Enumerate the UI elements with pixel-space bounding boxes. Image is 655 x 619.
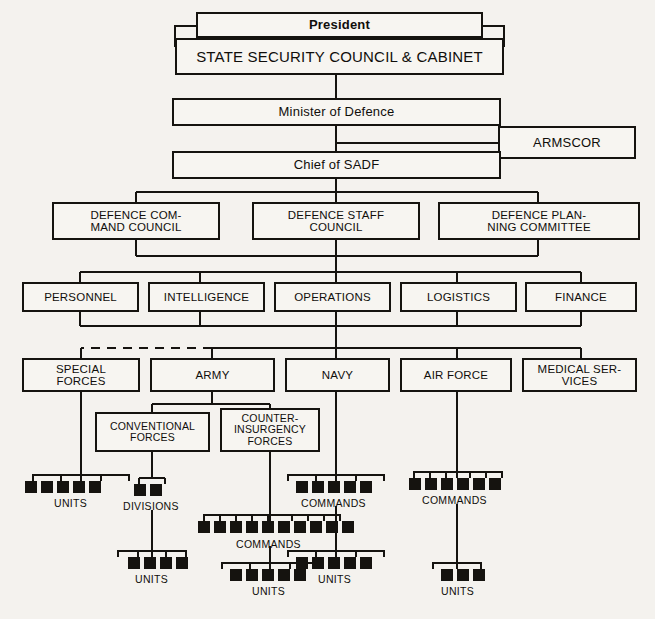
leaf-node-square[interactable] [473,569,485,581]
leaf-node-square[interactable] [360,481,372,493]
node-intelligence-label: INTELLIGENCE [164,291,249,303]
node-state-security-council[interactable]: STATE SECURITY COUNCIL & CABINET [175,38,504,75]
caption-navy-units: UNITS [318,573,351,585]
leaf-node-square[interactable] [457,569,469,581]
leaf-group-navy-commands[interactable] [296,481,372,493]
leaf-node-square[interactable] [328,481,340,493]
caption-conv-divisions: DIVISIONS [123,500,179,512]
leaf-group-coin-units[interactable] [230,569,306,581]
leaf-node-square[interactable] [342,521,354,533]
node-air-force[interactable]: AIR FORCE [400,358,512,392]
leaf-group-sf-units[interactable] [25,481,101,493]
leaf-node-square[interactable] [262,569,274,581]
node-minister-of-defence[interactable]: Minister of Defence [172,98,501,126]
leaf-node-square[interactable] [441,478,453,490]
node-intelligence[interactable]: INTELLIGENCE [148,282,265,312]
leaf-node-square[interactable] [344,481,356,493]
leaf-node-square[interactable] [176,557,188,569]
leaf-node-square[interactable] [128,557,140,569]
node-chief-of-sadf[interactable]: Chief of SADF [172,151,501,179]
leaf-node-square[interactable] [441,569,453,581]
leaf-node-square[interactable] [296,481,308,493]
leaf-node-square[interactable] [57,481,69,493]
node-defence-command-council-label: DEFENCE COM- MAND COUNCIL [90,209,181,233]
leaf-node-square[interactable] [278,569,290,581]
leaf-group-conv-divisions[interactable] [134,484,162,496]
leaf-node-square[interactable] [41,481,53,493]
leaf-node-square[interactable] [230,569,242,581]
node-state-security-council-label: STATE SECURITY COUNCIL & CABINET [196,49,483,65]
node-conventional-forces[interactable]: CONVENTIONAL FORCES [95,412,210,452]
leaf-node-square[interactable] [312,557,324,569]
leaf-group-navy-units[interactable] [296,557,372,569]
leaf-node-square[interactable] [294,521,306,533]
leaf-node-square[interactable] [344,557,356,569]
node-operations[interactable]: OPERATIONS [274,282,391,312]
leaf-node-square[interactable] [160,557,172,569]
leaf-node-square[interactable] [278,521,290,533]
leaf-node-square[interactable] [294,569,306,581]
caption-airforce-commands: COMMANDS [422,494,487,506]
node-special-forces[interactable]: SPECIAL FORCES [22,358,140,392]
caption-sf-units: UNITS [54,497,87,509]
leaf-node-square[interactable] [360,557,372,569]
leaf-node-square[interactable] [328,557,340,569]
leaf-node-square[interactable] [150,484,162,496]
node-army-label: ARMY [195,369,229,381]
node-army[interactable]: ARMY [150,358,275,392]
node-medical-services-label: MEDICAL SER- VICES [538,363,622,387]
node-navy-label: NAVY [322,369,353,381]
node-armscor-label: ARMSCOR [533,136,601,150]
node-medical-services[interactable]: MEDICAL SER- VICES [522,358,637,392]
leaf-group-coin-commands[interactable] [198,521,354,533]
caption-coin-commands: COMMANDS [236,538,301,550]
leaf-node-square[interactable] [262,521,274,533]
leaf-node-square[interactable] [198,521,210,533]
leaf-node-square[interactable] [312,481,324,493]
node-defence-planning-committee[interactable]: DEFENCE PLAN- NING COMMITTEE [438,202,640,240]
leaf-node-square[interactable] [230,521,242,533]
node-operations-label: OPERATIONS [294,291,371,303]
node-president[interactable]: President [196,12,483,38]
leaf-node-square[interactable] [144,557,156,569]
node-special-forces-label: SPECIAL FORCES [56,363,106,387]
leaf-group-airforce-commands[interactable] [409,478,501,490]
leaf-node-square[interactable] [326,521,338,533]
leaf-node-square[interactable] [214,521,226,533]
caption-coin-units: UNITS [252,585,285,597]
leaf-node-square[interactable] [425,478,437,490]
leaf-node-square[interactable] [409,478,421,490]
leaf-node-square[interactable] [310,521,322,533]
node-armscor[interactable]: ARMSCOR [498,126,636,159]
node-conventional-forces-label: CONVENTIONAL FORCES [110,421,195,443]
caption-divisions-units: UNITS [135,573,168,585]
org-chart: President STATE SECURITY COUNCIL & CABIN… [0,0,655,619]
node-defence-staff-council-label: DEFENCE STAFF COUNCIL [288,209,384,233]
node-defence-planning-committee-label: DEFENCE PLAN- NING COMMITTEE [487,209,591,233]
node-personnel-label: PERSONNEL [44,291,117,303]
node-logistics[interactable]: LOGISTICS [400,282,517,312]
leaf-node-square[interactable] [134,484,146,496]
leaf-node-square[interactable] [296,557,308,569]
node-finance-label: FINANCE [555,291,607,303]
leaf-node-square[interactable] [25,481,37,493]
node-counter-insurgency-forces-label: COUNTER- INSURGENCY FORCES [234,413,306,446]
leaf-node-square[interactable] [246,569,258,581]
node-personnel[interactable]: PERSONNEL [22,282,139,312]
leaf-node-square[interactable] [246,521,258,533]
leaf-node-square[interactable] [73,481,85,493]
leaf-node-square[interactable] [457,478,469,490]
node-defence-staff-council[interactable]: DEFENCE STAFF COUNCIL [252,202,420,240]
node-logistics-label: LOGISTICS [427,291,490,303]
caption-navy-commands: COMMANDS [301,497,366,509]
node-navy[interactable]: NAVY [285,358,390,392]
leaf-node-square[interactable] [489,478,501,490]
leaf-node-square[interactable] [473,478,485,490]
leaf-group-divisions-units[interactable] [128,557,188,569]
node-finance[interactable]: FINANCE [525,282,637,312]
node-counter-insurgency-forces[interactable]: COUNTER- INSURGENCY FORCES [220,408,320,452]
caption-airforce-units: UNITS [441,585,474,597]
leaf-group-airforce-units[interactable] [441,569,485,581]
leaf-node-square[interactable] [89,481,101,493]
node-defence-command-council[interactable]: DEFENCE COM- MAND COUNCIL [52,202,220,240]
